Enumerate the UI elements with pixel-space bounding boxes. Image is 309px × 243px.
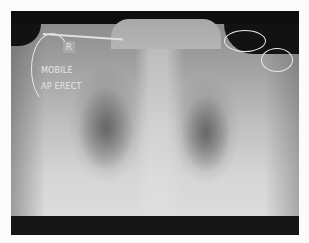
side-marker: R xyxy=(63,41,75,53)
bottom-border xyxy=(11,216,299,235)
monitor-lead-right-1 xyxy=(224,30,266,52)
neck-region xyxy=(111,19,221,49)
annotation-mobile: MOBILE xyxy=(41,66,73,75)
monitor-lead-right-2 xyxy=(261,48,293,72)
xray-image: R MOBILE AP ERECT xyxy=(11,11,299,235)
annotation-ap-erect: AP ERECT xyxy=(41,82,82,91)
